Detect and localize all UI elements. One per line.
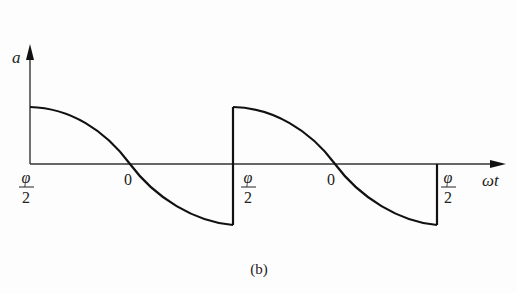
waveform-segment-2 xyxy=(233,107,437,225)
y-axis xyxy=(26,44,34,164)
svg-text:2: 2 xyxy=(22,189,30,206)
svg-text:2: 2 xyxy=(244,189,252,206)
y-axis-arrow-icon xyxy=(26,44,34,60)
svg-text:φ: φ xyxy=(444,169,453,187)
waveform-segment-1 xyxy=(30,107,233,225)
figure-caption: (b) xyxy=(250,261,268,278)
svg-text:φ: φ xyxy=(244,169,253,187)
x-axis xyxy=(30,160,506,168)
svg-text:2: 2 xyxy=(444,189,452,206)
y-axis-label: a xyxy=(12,48,21,67)
tick-label-phi-half-1: φ 2 xyxy=(19,169,34,206)
x-axis-label: ωt xyxy=(482,171,500,190)
x-axis-arrow-icon xyxy=(490,160,506,168)
tick-label-zero-2: 0 xyxy=(327,171,335,188)
waveform-diagram: a ωt φ 2 0 φ 2 0 φ 2 (b) xyxy=(0,0,517,293)
tick-label-phi-half-3: φ 2 xyxy=(441,169,456,206)
tick-label-zero-1: 0 xyxy=(124,171,132,188)
svg-text:φ: φ xyxy=(22,169,31,187)
figure-canvas: a ωt φ 2 0 φ 2 0 φ 2 (b) xyxy=(0,0,517,293)
waveform xyxy=(30,107,437,225)
tick-label-phi-half-2: φ 2 xyxy=(241,169,256,206)
